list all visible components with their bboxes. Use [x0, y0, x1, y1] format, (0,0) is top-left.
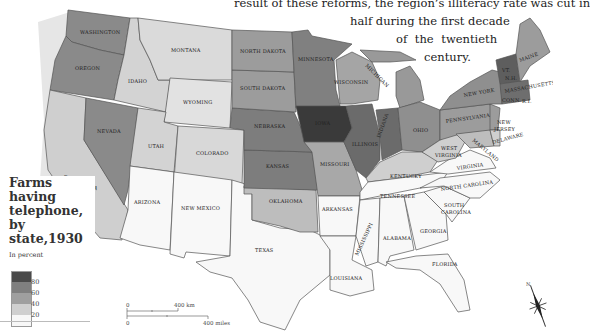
label-minnesota: MINNESOTA [298, 56, 334, 62]
label-south-dakota: SOUTH DAKOTA [240, 85, 286, 91]
label-nebraska: NEBRASKA [254, 123, 285, 129]
label-illinois: ILLINOIS [352, 141, 378, 147]
legend-title: Farms having telephone, by state,1930 [9, 176, 99, 246]
legend-divider [0, 321, 90, 322]
label-arizona: ARIZONA [133, 199, 160, 205]
legend-title-line: Farms [9, 176, 99, 190]
scale-km-label: 400 km [174, 302, 196, 308]
label-vermont: VT. [501, 67, 511, 73]
compass-north-label: N [526, 281, 531, 287]
label-west-virginia-2: VIRGINIA [434, 152, 462, 158]
legend-swatch-40-60 [11, 293, 32, 304]
caption-line-4: century. [424, 50, 471, 66]
state-maine [516, 18, 550, 82]
label-rhode-island: R.I. [522, 98, 532, 104]
label-south-carolina-2: CAROLINA [441, 209, 471, 215]
scale-mi-zero: 0 [126, 320, 130, 326]
state-new-mexico [170, 172, 232, 258]
caption-line-1: result of these reforms, the region’s il… [234, 0, 590, 12]
label-montana: MONTANA [171, 47, 201, 53]
label-florida: FLORIDA [432, 261, 458, 267]
label-arkansas: ARKANSAS [321, 206, 353, 212]
state-south-dakota [232, 70, 296, 112]
label-oregon: OREGON [75, 65, 101, 71]
label-alabama: ALABAMA [382, 235, 411, 241]
scale-bar [127, 308, 208, 319]
label-north-dakota: NORTH DAKOTA [240, 48, 286, 54]
label-missouri: MISSOURI [320, 161, 350, 167]
label-wisconsin: WISCONSIN [334, 79, 369, 85]
label-new-hampshire: N.H. [505, 75, 518, 81]
label-south-carolina-1: SOUTH [444, 202, 465, 208]
legend-title-line: having [9, 190, 99, 204]
label-oklahoma: OKLAHOMA [269, 198, 303, 204]
legend-unit: In percent [9, 251, 43, 259]
legend-swatch-60-80 [11, 282, 32, 293]
scale-km-zero: 0 [126, 302, 130, 308]
label-utah: UTAH [148, 143, 164, 149]
legend-tick-20: 20 [31, 311, 39, 319]
legend-swatch-20-40 [11, 304, 32, 315]
label-louisiana: LOUISIANA [330, 275, 363, 281]
state-kansas [244, 150, 318, 190]
label-ohio: OHIO [413, 127, 428, 133]
scale-mi-label: 400 miles [203, 320, 230, 326]
map-legend: Farms having telephone, by state,1930 In… [0, 176, 95, 320]
label-kansas: KANSAS [266, 163, 290, 169]
state-arkansas [318, 196, 360, 236]
legend-tick-80: 80 [31, 278, 39, 286]
label-new-jersey-1: NEW [497, 119, 511, 125]
label-washington: WASHINGTON [80, 29, 121, 35]
label-new-jersey-2: JERSEY [493, 126, 515, 133]
label-georgia: GEORGIA [420, 228, 447, 234]
label-idaho: IDAHO [128, 78, 147, 84]
label-tennessee: TENNESSEE [380, 193, 415, 199]
legend-tick-60: 60 [31, 289, 39, 297]
label-kentucky: KENTUCKY [390, 173, 422, 179]
label-connecticut: CONN. [502, 97, 521, 103]
caption-line-3: of the twentieth [396, 32, 497, 48]
label-west-virginia-1: WEST [441, 145, 458, 151]
legend-title-line: telephone, [9, 204, 99, 218]
label-nevada: NEVADA [97, 128, 121, 134]
label-colorado: COLORADO [196, 150, 228, 156]
legend-tick-40: 40 [31, 300, 39, 308]
caption-line-2: half during the first decade [350, 14, 510, 30]
compass-rose-icon [522, 282, 553, 330]
label-texas: TEXAS [255, 247, 274, 253]
label-iowa: IOWA [315, 120, 331, 126]
label-new-mexico: NEW MEXICO [181, 205, 220, 211]
label-wyoming: WYOMING [183, 99, 212, 105]
legend-title-line: by state,1930 [9, 218, 99, 246]
